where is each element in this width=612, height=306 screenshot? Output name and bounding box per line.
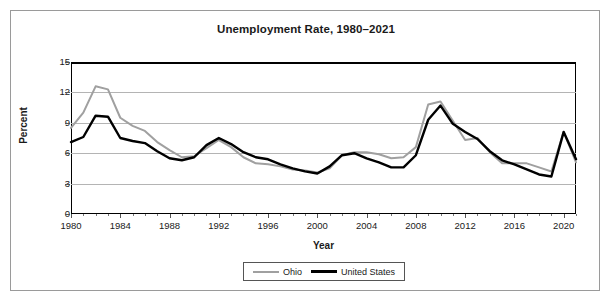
chart-legend: OhioUnited States: [243, 262, 405, 281]
x-tick-mark: [564, 214, 565, 218]
x-tick-mark: [514, 214, 515, 218]
y-axis-title: Percent: [18, 86, 29, 166]
x-tick-mark-minor: [305, 214, 306, 216]
x-tick-mark: [268, 214, 269, 218]
x-tick-mark-minor: [182, 214, 183, 216]
x-tick-label: 2000: [297, 220, 337, 231]
x-tick-mark: [71, 214, 72, 218]
x-tick-mark-minor: [539, 214, 540, 216]
x-tick-mark-minor: [256, 214, 257, 216]
x-tick-mark: [219, 214, 220, 218]
x-tick-mark-minor: [96, 214, 97, 216]
x-tick-mark-minor: [502, 214, 503, 216]
series-layer: [71, 62, 576, 214]
chart-figure: Unemployment Rate, 1980–2021 03691215 Pe…: [0, 0, 612, 306]
y-tick-mark: [65, 184, 70, 185]
x-tick-mark-minor: [145, 214, 146, 216]
x-tick-mark-minor: [293, 214, 294, 216]
legend-swatch-icon: [311, 270, 337, 273]
x-tick-mark-minor: [231, 214, 232, 216]
x-tick-mark-minor: [551, 214, 552, 216]
x-tick-mark-minor: [330, 214, 331, 216]
x-axis-title: Year: [71, 240, 576, 251]
x-tick-mark: [170, 214, 171, 218]
x-tick-mark: [317, 214, 318, 218]
x-tick-mark-minor: [477, 214, 478, 216]
x-tick-mark-minor: [428, 214, 429, 216]
x-tick-mark: [416, 214, 417, 218]
x-tick-label: 2012: [445, 220, 485, 231]
x-tick-label: 1980: [51, 220, 91, 231]
x-tick-label: 2016: [494, 220, 534, 231]
x-tick-mark: [367, 214, 368, 218]
x-tick-mark-minor: [133, 214, 134, 216]
x-tick-mark-minor: [83, 214, 84, 216]
x-tick-mark-minor: [206, 214, 207, 216]
x-tick-mark-minor: [453, 214, 454, 216]
y-tick-mark: [65, 153, 70, 154]
plot-wrapper: [71, 62, 576, 214]
x-tick-label: 2008: [396, 220, 436, 231]
legend-label: United States: [341, 267, 395, 277]
x-tick-mark-minor: [354, 214, 355, 216]
x-tick-mark-minor: [391, 214, 392, 216]
y-tick-mark: [65, 92, 70, 93]
x-tick-mark-minor: [527, 214, 528, 216]
x-tick-mark-minor: [379, 214, 380, 216]
x-tick-mark-minor: [576, 214, 577, 216]
x-tick-label: 1996: [248, 220, 288, 231]
y-tick-mark: [65, 123, 70, 124]
chart-title: Unemployment Rate, 1980–2021: [0, 23, 612, 35]
x-tick-mark-minor: [194, 214, 195, 216]
legend-swatch-icon: [253, 271, 279, 273]
y-tick-mark: [65, 214, 70, 215]
x-tick-mark-minor: [441, 214, 442, 216]
x-tick-mark: [120, 214, 121, 218]
legend-item-ohio[interactable]: Ohio: [253, 267, 302, 277]
legend-label: Ohio: [283, 267, 302, 277]
x-tick-mark: [465, 214, 466, 218]
x-tick-mark-minor: [280, 214, 281, 216]
x-tick-label: 1988: [150, 220, 190, 231]
x-tick-label: 1984: [100, 220, 140, 231]
x-tick-label: 2004: [347, 220, 387, 231]
x-tick-mark-minor: [243, 214, 244, 216]
x-tick-mark-minor: [342, 214, 343, 216]
y-tick-mark: [65, 62, 70, 63]
y-axis-ticks: 03691215: [36, 62, 70, 214]
x-tick-mark-minor: [490, 214, 491, 216]
x-tick-label: 1992: [199, 220, 239, 231]
x-tick-mark-minor: [404, 214, 405, 216]
x-tick-label: 2020: [544, 220, 584, 231]
x-axis-ticks: 1980198419881992199620002004200820122016…: [71, 214, 576, 236]
x-tick-mark-minor: [108, 214, 109, 216]
series-line-united-states: [71, 106, 576, 177]
x-tick-mark-minor: [157, 214, 158, 216]
legend-item-united-states[interactable]: United States: [311, 267, 395, 277]
